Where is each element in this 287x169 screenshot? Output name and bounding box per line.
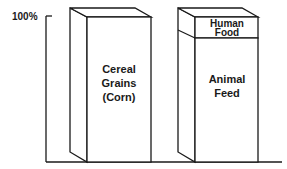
bar1-label-line3: (Corn) xyxy=(103,91,136,103)
animal-feed-label-line1: Animal xyxy=(209,73,246,85)
bar1-label-line1: Cereal xyxy=(102,63,136,75)
animal-feed-label-line2: Feed xyxy=(214,87,240,99)
bar1-front-face xyxy=(87,17,151,162)
bar1-label-line2: Grains xyxy=(102,77,137,89)
bar1-side-face xyxy=(70,8,87,162)
segment-animal-feed xyxy=(195,38,258,162)
y-tick-100: 100% xyxy=(12,11,38,22)
chart: 100% Cereal Grains (Corn) Human Food Ani… xyxy=(0,0,287,169)
human-food-label-line2: Food xyxy=(215,27,239,38)
